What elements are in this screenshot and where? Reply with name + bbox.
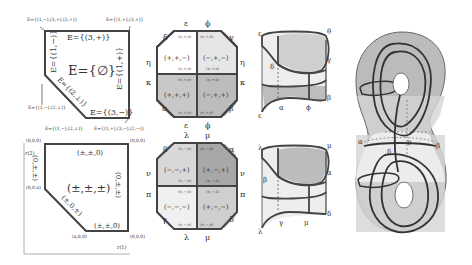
label-nu-right: ν bbox=[240, 169, 245, 178]
left-edge: (0,±,±) bbox=[31, 155, 39, 181]
center: (±,±,±) bbox=[67, 182, 110, 195]
edge-label: (±,+,0) bbox=[200, 111, 214, 115]
cell-label: (+,+,−) bbox=[164, 54, 190, 62]
label-alpha: α bbox=[358, 138, 363, 146]
label-eta-left: η bbox=[146, 58, 151, 67]
edge-label: (±,+,0) bbox=[178, 67, 192, 71]
panel-a-polygon: E={(1,−),(3,+),(2,+)} E={(1,+),(3,+)} E=… bbox=[27, 17, 145, 131]
panel-b-polygon: (0,0,0) (0,0,0) (0,0,a) (a,0,0) (0,0,0) … bbox=[24, 138, 145, 254]
top-edge-label: E={(3,+)} bbox=[67, 33, 110, 42]
edge-label: (±,−,0) bbox=[178, 179, 192, 183]
label-gamma: γ bbox=[229, 33, 234, 42]
corner-label-tl: E={(1,−),(3,+),(2,+)} bbox=[27, 17, 78, 22]
corner-label-br: E={(1,+),(3,−),(2,−)} bbox=[94, 126, 145, 131]
label-kappa-right: κ bbox=[240, 78, 245, 87]
label: δ bbox=[327, 210, 331, 218]
label: γ bbox=[279, 219, 283, 227]
label-mu-bottom: μ bbox=[205, 233, 210, 242]
cylinder-bottom: λ μ α β γ μ δ λ bbox=[258, 142, 332, 236]
label: β bbox=[263, 176, 267, 184]
label-pi-right: π bbox=[240, 190, 245, 199]
label: θ bbox=[327, 28, 331, 36]
octagon-bottom: λ μ β α ν ν π π γ δ λ μ (−,−,+) (+,−,+) … bbox=[146, 131, 245, 242]
edge-label: (±,−,0) bbox=[206, 190, 220, 194]
corner-ml: (0,0,a) bbox=[26, 185, 41, 190]
edge-label: (±,−,0) bbox=[178, 190, 192, 194]
label-gamma: γ bbox=[162, 215, 167, 224]
label: γ bbox=[327, 56, 331, 64]
label-beta: β bbox=[229, 104, 234, 113]
corner-tl: (0,0,0) bbox=[26, 138, 41, 143]
label: β bbox=[327, 94, 331, 102]
center-label: E={∅} bbox=[68, 63, 116, 78]
label-alpha: α bbox=[162, 104, 168, 113]
right-edge-label: E={(1,+)} bbox=[115, 47, 124, 90]
label-delta: δ bbox=[387, 148, 391, 156]
cell-label: (+,−,−) bbox=[203, 203, 229, 211]
figure: E={(1,−),(3,+),(2,+)} E={(1,+),(3,+)} E=… bbox=[0, 0, 472, 265]
label-phi: ϕ bbox=[205, 19, 211, 28]
cell-label: (−,−,−) bbox=[164, 203, 190, 211]
cell-label: (−,−,+) bbox=[164, 166, 190, 174]
label: λ bbox=[258, 144, 263, 152]
label-eta-right: η bbox=[240, 58, 245, 67]
label-nu-left: ν bbox=[146, 169, 151, 178]
label-delta: δ bbox=[229, 215, 234, 224]
y-axis-label: r(2) bbox=[25, 150, 35, 156]
label-delta: δ bbox=[163, 33, 168, 42]
bottom-edge-label: E={(3,−)} bbox=[90, 108, 133, 117]
label-beta: β bbox=[436, 142, 440, 150]
label-alpha: α bbox=[229, 145, 235, 154]
label: μ bbox=[304, 219, 309, 227]
edge-label: (±,+,0) bbox=[178, 78, 192, 82]
label-phi-bottom: ϕ bbox=[205, 121, 211, 130]
label-pi-left: π bbox=[146, 190, 151, 199]
cell-label: (−,+,+) bbox=[203, 91, 229, 99]
label-lambda: λ bbox=[184, 131, 189, 140]
top-edge: (±,±,0) bbox=[77, 149, 103, 157]
edge-label: (±,+,0) bbox=[206, 78, 220, 82]
edge-label: (±,+,0) bbox=[206, 67, 220, 71]
corner-tr: (0,0,0) bbox=[130, 138, 145, 143]
edge-label: (±,−,0) bbox=[200, 147, 214, 151]
label-lambda-bottom: λ bbox=[184, 233, 189, 242]
label: μ bbox=[327, 142, 332, 150]
cell-label: (+,+,+) bbox=[164, 91, 190, 99]
edge-label: (±,+,0) bbox=[200, 35, 214, 39]
label-beta: β bbox=[163, 145, 168, 154]
label: α bbox=[279, 104, 284, 112]
label-epsilon-bottom: ε bbox=[184, 121, 188, 130]
corner-bm: (a,0,0) bbox=[72, 234, 87, 239]
label-gamma: γ bbox=[407, 138, 411, 146]
label-kappa-left: κ bbox=[146, 78, 151, 87]
bottom-edge: (±,±,0) bbox=[94, 222, 120, 230]
corner-label-bl: E={(1,−),(2,⊥)} bbox=[28, 105, 66, 110]
octagon-top: ε ϕ δ γ η η κ κ α β ε ϕ (+,+,−) (−,+,−) … bbox=[146, 19, 245, 130]
label-mu: μ bbox=[205, 131, 210, 140]
label: ϕ bbox=[306, 104, 311, 112]
edge-label: (±,−,0) bbox=[178, 223, 192, 227]
x-axis-label: r(1) bbox=[117, 244, 127, 250]
cell-label: (−,+,−) bbox=[203, 54, 229, 62]
label: ε bbox=[258, 30, 262, 38]
edge-label: (±,+,0) bbox=[178, 111, 192, 115]
label-epsilon: ε bbox=[184, 19, 188, 28]
label: λ bbox=[258, 228, 263, 236]
edge-label: (±,+,0) bbox=[178, 35, 192, 39]
right-edge: (0,±,±) bbox=[114, 172, 122, 198]
left-edge-label: E={(1,−)} bbox=[49, 30, 58, 73]
corner-br: (0,0,0) bbox=[130, 234, 145, 239]
edge-label: (±,−,0) bbox=[178, 147, 192, 151]
corner-label-tr: E={(1,+),(3,+)} bbox=[106, 17, 143, 22]
genus-two-surface: α δ γ β bbox=[356, 32, 446, 232]
label: α bbox=[327, 169, 332, 177]
label: ε bbox=[258, 112, 262, 120]
corner-label-bm: E={(1,−),(2,⊥)} bbox=[45, 126, 83, 131]
cylinder-top: ε θ γ δ α ϕ β ε bbox=[258, 28, 331, 120]
edge-label: (±,−,0) bbox=[206, 179, 220, 183]
edge-label: (±,−,0) bbox=[200, 223, 214, 227]
cell-label: (+,−,+) bbox=[203, 166, 229, 174]
label: δ bbox=[270, 63, 274, 71]
